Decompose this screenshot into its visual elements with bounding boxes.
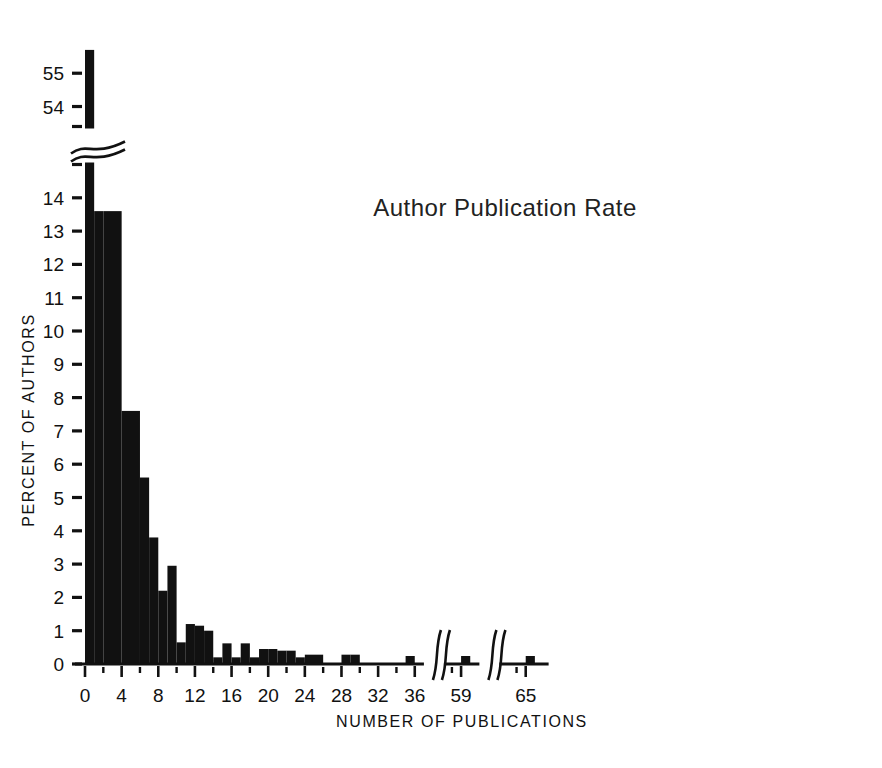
histogram-bar	[268, 649, 277, 664]
x-axis-tick-label: 59	[451, 685, 472, 706]
x-axis-tick-label: 16	[221, 685, 242, 706]
histogram-bar	[222, 643, 231, 664]
y-axis-tick-label: 12	[43, 254, 64, 275]
histogram-bar	[94, 211, 103, 664]
histogram-bar	[277, 651, 286, 664]
y-axis-tick-label: 7	[53, 421, 64, 442]
y-axis-tick-label: 1	[53, 621, 64, 642]
histogram-bar	[186, 624, 195, 664]
histogram-bar	[177, 642, 186, 664]
chart-plot-area: 0481216202428323659650123456789101112131…	[0, 0, 882, 768]
histogram-bar	[195, 626, 204, 664]
x-axis-tick-label: 28	[331, 685, 352, 706]
chart-title: Author Publication Rate	[373, 194, 637, 221]
y-axis-tick-label: 8	[53, 388, 64, 409]
y-axis-tick-label: 11	[44, 288, 64, 309]
x-axis-break-squiggle	[442, 630, 450, 680]
y-axis-tick-label: 54	[43, 97, 65, 118]
figure-container: 0481216202428323659650123456789101112131…	[0, 0, 882, 768]
y-axis-tick-label: 5	[53, 488, 64, 509]
y-axis-tick-label: 6	[53, 454, 64, 475]
x-axis-tick-label: 65	[515, 685, 536, 706]
histogram-bar	[204, 631, 213, 664]
histogram-bar	[167, 566, 176, 664]
x-axis-tick-label: 12	[184, 685, 205, 706]
histogram-bar	[287, 651, 296, 664]
y-axis-tick-label: 4	[53, 521, 64, 542]
bars-group	[85, 50, 535, 664]
histogram-bar	[259, 649, 268, 664]
histogram-bar	[158, 591, 167, 664]
histogram-bar	[140, 478, 149, 664]
x-axis-break-squiggle	[433, 630, 441, 680]
histogram-bar	[149, 537, 158, 664]
x-axis-tick-label: 8	[153, 685, 164, 706]
y-axis-tick-label: 55	[43, 63, 64, 84]
histogram-bar	[241, 643, 250, 664]
x-axis-tick-label: 0	[80, 685, 91, 706]
histogram-bar	[103, 211, 121, 664]
y-axis-tick-label: 10	[43, 321, 64, 342]
histogram-chart: 0481216202428323659650123456789101112131…	[0, 0, 882, 768]
histogram-bar	[122, 411, 140, 664]
y-axis-tick-label: 0	[53, 654, 64, 675]
y-axis-tick-label: 13	[43, 221, 64, 242]
y-axis-tick-label: 3	[53, 554, 64, 575]
x-axis-tick-label: 32	[368, 685, 389, 706]
x-axis-tick-label: 20	[258, 685, 279, 706]
x-axis-break-squiggle	[497, 630, 505, 680]
y-axis-tick-label: 9	[53, 354, 64, 375]
y-axis-tick-label: 2	[53, 587, 64, 608]
x-axis-tick-label: 36	[404, 685, 425, 706]
x-axis-tick-label: 24	[294, 685, 316, 706]
x-axis-break-squiggle	[488, 630, 496, 680]
x-axis-title: NUMBER OF PUBLICATIONS	[336, 713, 588, 730]
x-axis-tick-label: 4	[116, 685, 127, 706]
y-axis-title: PERCENT OF AUTHORS	[20, 313, 37, 526]
y-axis-tick-label: 14	[43, 188, 65, 209]
